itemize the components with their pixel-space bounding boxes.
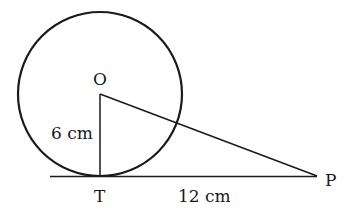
label-point-p: P [325,170,336,190]
tangent-circle-diagram: O 6 cm T 12 cm P [0,0,345,220]
label-point-o: O [93,69,107,89]
segment-op [100,94,317,176]
label-segment-tp: 12 cm [178,186,231,206]
label-point-t: T [94,186,106,206]
label-radius-ot: 6 cm [51,123,93,143]
